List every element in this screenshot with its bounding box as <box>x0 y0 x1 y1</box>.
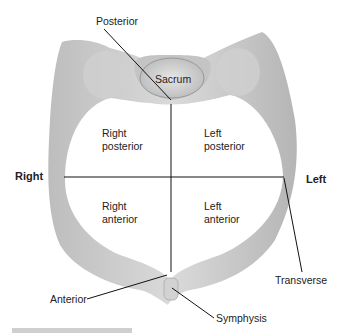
label-transverse: Transverse <box>275 274 327 287</box>
label-right-posterior: Right posterior <box>102 127 143 153</box>
label-right: Right <box>15 170 43 183</box>
label-right-anterior: Right anterior <box>102 200 138 226</box>
transverse-leader <box>284 178 302 272</box>
label-sacrum: Sacrum <box>155 73 191 86</box>
symphysis-leader <box>172 288 214 318</box>
label-left: Left <box>306 173 326 186</box>
label-left-posterior: Left posterior <box>204 127 245 153</box>
label-left-anterior: Left anterior <box>204 200 240 226</box>
label-symphysis: Symphysis <box>216 312 267 325</box>
label-anterior: Anterior <box>50 293 87 306</box>
label-posterior: Posterior <box>96 15 138 28</box>
